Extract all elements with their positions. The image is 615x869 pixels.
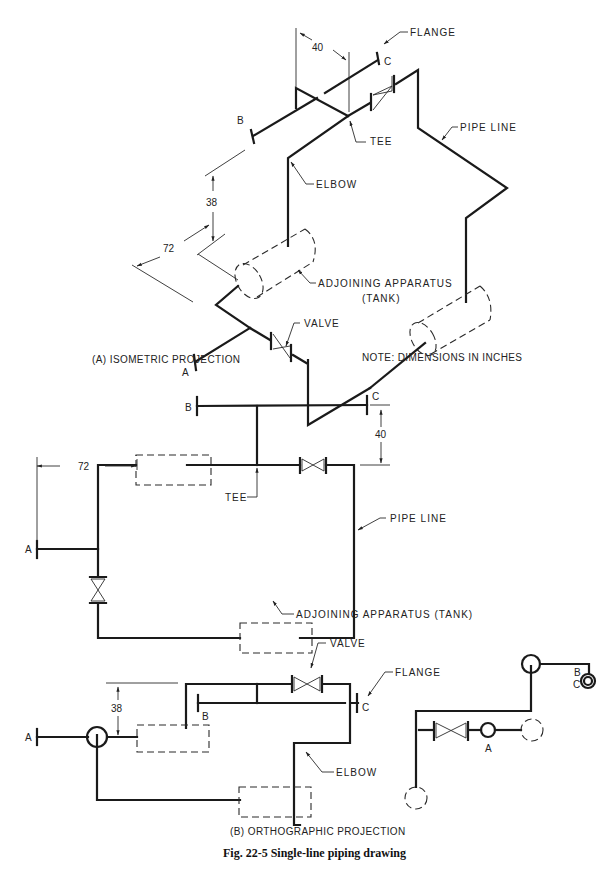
side-flange-bc-inner bbox=[584, 677, 592, 685]
orthographic-top-view: 72 40 TEE PIPE LINE ADJOINING APPARATUS … bbox=[25, 391, 473, 653]
top-pipe-left-vertical bbox=[98, 465, 136, 577]
iso-tank-upper bbox=[229, 229, 315, 303]
front-pipe-right-elbow bbox=[294, 684, 350, 825]
front-valve-leader bbox=[311, 643, 326, 668]
side-point-c: C bbox=[573, 679, 581, 690]
top-valve-horizontal bbox=[300, 458, 326, 473]
top-point-a: A bbox=[25, 544, 33, 555]
front-flange-c bbox=[352, 694, 358, 712]
top-dim-72: 72 bbox=[37, 455, 137, 541]
iso-pipe-to-valve bbox=[348, 103, 370, 116]
top-point-b: B bbox=[185, 402, 193, 413]
top-tank-upper bbox=[136, 455, 211, 485]
front-label-elbow: ELBOW bbox=[336, 767, 377, 778]
iso-pipe-c-segment bbox=[325, 60, 378, 93]
orthographic-caption: (B) ORTHOGRAPHIC PROJECTION bbox=[230, 826, 406, 837]
flange-leader bbox=[384, 32, 408, 44]
label-flange: FLANGE bbox=[410, 27, 456, 38]
iso-valve-lower bbox=[271, 333, 291, 361]
front-elbow-leader bbox=[306, 752, 334, 772]
isometric-view: 40 38 72 FLANGE TEE PIPE LINE ELBOW ADJO… bbox=[92, 27, 522, 425]
front-pipe-bottom bbox=[97, 735, 240, 800]
iso-flange-b bbox=[251, 130, 254, 143]
iso-pipe-into-lower-tank bbox=[370, 343, 425, 388]
apparatus-leader bbox=[298, 270, 316, 283]
top-pipe-line-leader bbox=[358, 518, 386, 530]
side-tank-lower bbox=[405, 787, 427, 809]
front-point-c: C bbox=[362, 702, 370, 713]
top-apparatus-leader bbox=[273, 601, 294, 614]
iso-valve-upper bbox=[371, 76, 394, 110]
side-tank-upper bbox=[521, 719, 543, 741]
iso-pipe-tank-to-a bbox=[216, 286, 250, 328]
front-label-valve: VALVE bbox=[330, 638, 366, 649]
iso-pipe-to-lower-valve bbox=[250, 328, 270, 340]
iso-pipe-line-right bbox=[396, 70, 507, 302]
front-tank-lower bbox=[239, 787, 311, 817]
orthographic-front-view: 38 VALVE FLANGE ELBOW B C A bbox=[25, 638, 441, 825]
iso-pipe-b-segment bbox=[253, 98, 317, 136]
isometric-caption: (A) ISOMETRIC PROJECTION bbox=[92, 354, 241, 365]
side-point-a: A bbox=[485, 743, 493, 754]
top-dim-72-label: 72 bbox=[78, 461, 90, 472]
point-c: C bbox=[384, 56, 392, 67]
elbow-leader bbox=[291, 162, 314, 184]
top-label-pipe-line: PIPE LINE bbox=[390, 513, 447, 524]
dim-40-label: 40 bbox=[312, 42, 324, 53]
tee-leader bbox=[350, 121, 366, 142]
iso-tee-riser bbox=[296, 88, 348, 116]
top-point-c: C bbox=[372, 391, 380, 402]
dimensions-note: NOTE: DIMENSIONS IN INCHES bbox=[362, 352, 522, 363]
top-label-apparatus: ADJOINING APPARATUS (TANK) bbox=[296, 609, 473, 620]
label-elbow: ELBOW bbox=[316, 179, 357, 190]
front-dim-38-label: 38 bbox=[111, 703, 123, 714]
point-a: A bbox=[182, 367, 190, 378]
orthographic-side-view: B C A bbox=[405, 655, 595, 809]
iso-dim-40: 40 bbox=[296, 28, 349, 112]
dim-72-label: 72 bbox=[163, 243, 175, 254]
piping-drawing: 40 38 72 FLANGE TEE PIPE LINE ELBOW ADJO… bbox=[0, 0, 615, 869]
front-point-b: B bbox=[202, 711, 210, 722]
dim-38-label: 38 bbox=[206, 197, 218, 208]
valve-leader bbox=[286, 323, 300, 346]
front-label-flange: FLANGE bbox=[395, 667, 441, 678]
top-valve-vertical bbox=[90, 577, 106, 603]
label-pipe-line: PIPE LINE bbox=[460, 122, 517, 133]
top-dim-40: 40 bbox=[360, 405, 390, 465]
pipe-line-leader bbox=[442, 127, 458, 140]
top-label-tee: TEE bbox=[225, 492, 247, 503]
iso-pipe-lower bbox=[293, 355, 370, 425]
side-valve bbox=[434, 722, 468, 740]
front-valve bbox=[292, 676, 322, 692]
label-tee: TEE bbox=[370, 136, 392, 147]
top-pipe-bottom bbox=[98, 603, 240, 638]
iso-flange-c bbox=[377, 53, 379, 64]
label-apparatus: ADJOINING APPARATUS bbox=[318, 278, 453, 289]
front-tank-upper bbox=[137, 725, 209, 752]
top-dim-40-label: 40 bbox=[375, 429, 387, 440]
front-flange-leader bbox=[368, 672, 393, 696]
side-pipe-a-symbol bbox=[481, 723, 495, 737]
top-tee-leader bbox=[247, 468, 257, 497]
point-b: B bbox=[237, 115, 245, 126]
front-dim-38: 38 bbox=[106, 683, 178, 735]
iso-dim-38: 38 bbox=[197, 150, 245, 255]
side-point-b: B bbox=[574, 667, 582, 678]
label-tank: (TANK) bbox=[362, 293, 401, 304]
label-valve: VALVE bbox=[304, 318, 340, 329]
top-pipe-b-c bbox=[197, 405, 367, 406]
figure-caption: Fig. 22-5 Single-line piping drawing bbox=[223, 846, 406, 860]
front-point-a: A bbox=[25, 732, 33, 743]
